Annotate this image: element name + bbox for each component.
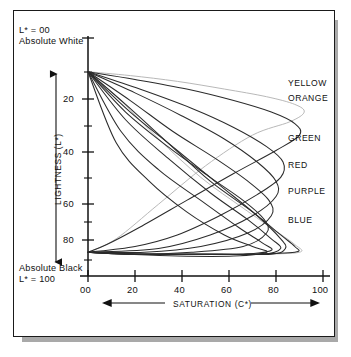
series-label-purple: PURPLE <box>288 186 325 196</box>
curve-blue-upper <box>88 72 268 254</box>
series-label-blue: BLUE <box>288 215 312 225</box>
x-axis-title: SATURATION (C*) <box>173 299 252 309</box>
y-tick-label-20: 20 <box>63 93 74 104</box>
series-label-yellow: YELLOW <box>288 78 327 88</box>
axes-group <box>80 36 330 276</box>
curve-yellow-upper <box>88 72 304 252</box>
bottom-annotation-line1: Absolute Black <box>19 263 83 274</box>
x-tick-label-40: 40 <box>174 284 185 295</box>
x-tick-label-80: 80 <box>268 284 279 295</box>
x-tick-label-100: 100 <box>312 284 328 295</box>
curve-green <box>88 72 286 255</box>
top-annotation-line2: Absolute White <box>19 36 84 47</box>
y-axis-title: LIGHTNESS (L*) <box>53 133 63 205</box>
x-tick-label-20: 20 <box>127 284 138 295</box>
series-label-red: RED <box>288 160 308 170</box>
figure-root: L* = 00 Absolute White Absolute Black L*… <box>0 0 351 357</box>
y-tick-label-40: 40 <box>63 146 74 157</box>
x-tick-label-00: 00 <box>80 284 91 295</box>
y-tick-label-60: 60 <box>63 198 74 209</box>
y-tick-label-80: 80 <box>63 234 74 245</box>
bottom-annotation-line2: L* = 100 <box>19 274 55 285</box>
top-annotation-line1: L* = 00 <box>19 25 50 36</box>
curve-green-lower <box>88 72 286 255</box>
series-label-green: GREEN <box>288 133 321 143</box>
series-curves <box>88 72 304 257</box>
series-label-orange: ORANGE <box>288 93 328 103</box>
x-tick-label-60: 60 <box>221 284 232 295</box>
curve-orange-lower <box>88 72 299 255</box>
